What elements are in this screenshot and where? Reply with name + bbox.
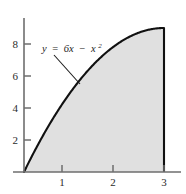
plot-area: 8 6 4 2 1 2 3 y = 6x − x 2	[0, 0, 186, 194]
equation-x: x	[90, 43, 96, 54]
y-tick-label-8: 8	[13, 38, 19, 50]
figure-container: 8 6 4 2 1 2 3 y = 6x − x 2	[0, 0, 186, 194]
curve-equation-label: y = 6x − x 2	[41, 42, 102, 54]
y-tick-label-4: 4	[13, 102, 19, 114]
equation-y: y	[41, 43, 47, 54]
x-tick-label-2: 2	[110, 176, 116, 188]
equation-exponent: 2	[98, 42, 102, 50]
x-tick-label-3: 3	[161, 176, 167, 188]
y-axis-tick-labels: 8 6 4 2	[13, 38, 19, 146]
equation-six-x: 6x	[64, 43, 74, 54]
x-axis-tick-labels: 1 2 3	[59, 176, 167, 188]
x-tick-label-1: 1	[59, 176, 65, 188]
equation-equals: =	[52, 43, 58, 54]
leader-line-icon	[54, 55, 80, 84]
y-axis-ticks	[24, 44, 31, 140]
y-tick-label-6: 6	[13, 70, 19, 82]
equation-minus: −	[79, 43, 85, 54]
y-tick-label-2: 2	[13, 134, 19, 146]
